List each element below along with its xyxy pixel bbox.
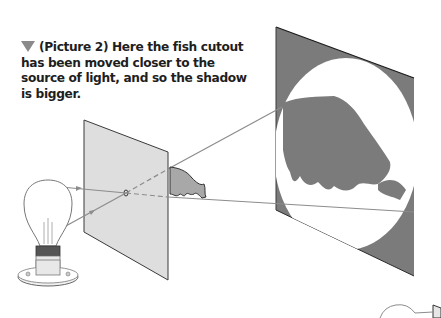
- cutout-card: [84, 120, 168, 280]
- fish-cutout: [170, 167, 206, 198]
- next-screen-partial: [380, 305, 441, 318]
- diagram: [0, 0, 441, 318]
- shadow-screen: [274, 27, 418, 276]
- light-bulb: [18, 180, 78, 286]
